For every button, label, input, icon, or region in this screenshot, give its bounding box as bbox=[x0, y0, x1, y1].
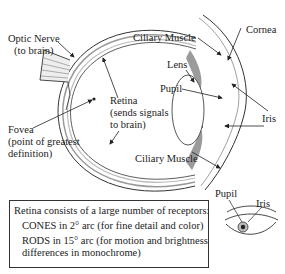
label-small-eye-iris: Iris bbox=[256, 198, 270, 210]
label-ciliary-muscle-top: Ciliary Muscle bbox=[133, 32, 196, 44]
info-box-cones: CONES in 2° arc (for fine detail and col… bbox=[14, 220, 204, 232]
label-optic-nerve: Optic Nerve (to brain) bbox=[8, 33, 60, 57]
label-retina: Retina (sends signals to brain) bbox=[110, 95, 169, 131]
label-pupil: Pupil bbox=[160, 83, 182, 95]
label-fovea-line1: Fovea bbox=[8, 124, 80, 136]
info-box-rods-line1: RODS in 15° arc (for motion and brightne… bbox=[14, 235, 204, 247]
label-cornea: Cornea bbox=[246, 24, 276, 36]
cornea bbox=[199, 15, 246, 190]
label-retina-line3: to brain) bbox=[110, 119, 169, 131]
optic-nerve bbox=[40, 50, 70, 110]
label-lens: Lens bbox=[167, 59, 187, 71]
label-retina-line1: Retina bbox=[110, 95, 169, 107]
fovea-dot bbox=[92, 97, 95, 100]
label-fovea: Fovea (point of greatest definition) bbox=[8, 124, 80, 160]
info-box-rods-line2: differences in monochrome) bbox=[14, 247, 204, 259]
label-optic-nerve-line1: Optic Nerve bbox=[8, 33, 60, 45]
label-small-eye-pupil: Pupil bbox=[215, 188, 237, 200]
info-box-title: Retina consists of a large number of rec… bbox=[14, 205, 204, 217]
small-eye-icon bbox=[225, 200, 278, 234]
label-iris: Iris bbox=[262, 113, 276, 125]
label-fovea-line3: definition) bbox=[8, 148, 80, 160]
retina-info-box: Retina consists of a large number of rec… bbox=[9, 200, 209, 268]
label-optic-nerve-line2: (to brain) bbox=[8, 45, 60, 57]
label-fovea-line2: (point of greatest bbox=[8, 136, 80, 148]
label-ciliary-muscle-bottom: Ciliary Muscle bbox=[135, 153, 198, 165]
label-retina-line2: (sends signals bbox=[110, 107, 169, 119]
